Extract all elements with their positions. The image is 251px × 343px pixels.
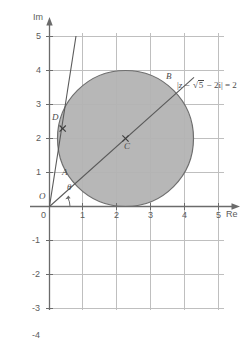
y-tick-label-5: 5 xyxy=(36,32,41,41)
y-tick-label-1: 1 xyxy=(36,168,41,177)
x-tick-label-1: 1 xyxy=(80,211,85,220)
origin-label-upper: O xyxy=(39,192,46,201)
angle-theta-label: θ xyxy=(67,183,71,192)
equation-equals: = xyxy=(225,80,230,90)
angle-theta-arrowhead xyxy=(65,195,70,199)
x-tick-label-3: 3 xyxy=(148,211,153,220)
point-label-B: B xyxy=(166,72,172,81)
equation-variable-z: z xyxy=(179,80,183,90)
y-tick-label-4: 4 xyxy=(36,66,41,75)
x-tick-label-4: 4 xyxy=(182,211,187,220)
y-tick-label-neg1: -1 xyxy=(32,236,40,245)
equation-minus-1: − xyxy=(185,80,190,90)
y-tick-label-neg2: -2 xyxy=(32,270,40,279)
point-label-C: C xyxy=(124,142,130,151)
equation-radius: 2 xyxy=(232,80,237,90)
angle-theta-arc xyxy=(68,198,70,207)
y-tick-label-2: 2 xyxy=(36,134,41,143)
im-axis-arrowhead xyxy=(46,17,52,26)
argand-diagram-figure: 5 4 3 2 1 -1 -2 -3 -4 1 2 3 4 5 O 0 Im R… xyxy=(0,0,251,343)
origin-tick-label: 0 xyxy=(41,211,46,220)
y-tick-label-neg4: -4 xyxy=(32,331,40,340)
point-label-D: D xyxy=(52,113,59,122)
im-axis-label: Im xyxy=(33,13,43,22)
point-label-A: A xyxy=(62,168,68,177)
re-axis-label: Re xyxy=(226,210,238,219)
equation-imaginary-term: 2i xyxy=(214,80,221,90)
x-tick-label-2: 2 xyxy=(114,211,119,220)
modulus-close-bar: | xyxy=(221,80,223,90)
x-tick-label-5: 5 xyxy=(216,211,221,220)
y-tick-label-3: 3 xyxy=(36,100,41,109)
sqrt-icon: √5 xyxy=(192,80,204,90)
circle-equation-label: |z − √5 − 2i| = 2 xyxy=(177,80,237,90)
sqrt-radicand: 5 xyxy=(198,80,205,90)
equation-minus-2: − xyxy=(207,80,212,90)
y-tick-label-neg3: -3 xyxy=(32,304,40,313)
